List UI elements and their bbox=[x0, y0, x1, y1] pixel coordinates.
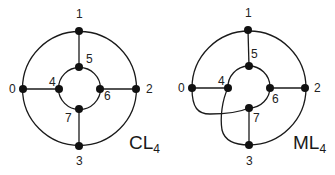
node-1 bbox=[75, 27, 83, 35]
label-5: 5 bbox=[251, 47, 258, 61]
edge-0-7 bbox=[192, 88, 249, 114]
node-4 bbox=[224, 84, 232, 92]
node-3 bbox=[245, 141, 253, 149]
node-6 bbox=[266, 84, 274, 92]
label-0: 0 bbox=[178, 81, 185, 95]
node-2 bbox=[301, 84, 309, 92]
node-5 bbox=[75, 63, 83, 71]
edge-4-3 bbox=[221, 88, 249, 145]
node-7 bbox=[75, 105, 83, 113]
cl4-graph: 0 1 2 3 4 5 6 7 CL4 bbox=[9, 7, 160, 168]
node-6 bbox=[96, 85, 104, 93]
label-4: 4 bbox=[49, 75, 56, 89]
inner-ring bbox=[59, 68, 101, 110]
node-4 bbox=[55, 85, 63, 93]
label-6: 6 bbox=[104, 89, 111, 103]
label-0: 0 bbox=[9, 82, 16, 96]
graph-diagrams: 0 1 2 3 4 5 6 7 CL4 0 1 2 3 4 5 bbox=[0, 0, 335, 175]
node-1 bbox=[244, 26, 252, 34]
label-7: 7 bbox=[253, 111, 260, 125]
cl4-title: CL4 bbox=[129, 132, 160, 156]
inner-arc-4-5-6-7 bbox=[228, 66, 270, 108]
node-3 bbox=[75, 142, 83, 150]
label-5: 5 bbox=[86, 52, 93, 66]
node-0 bbox=[19, 85, 27, 93]
label-3: 3 bbox=[76, 154, 83, 168]
label-1: 1 bbox=[245, 6, 252, 20]
edge-1-5 bbox=[248, 30, 249, 66]
label-2: 2 bbox=[146, 82, 153, 96]
ml4-title: ML4 bbox=[293, 132, 326, 156]
node-5 bbox=[245, 62, 253, 70]
label-6: 6 bbox=[272, 92, 279, 106]
label-4: 4 bbox=[218, 74, 225, 88]
label-3: 3 bbox=[246, 154, 253, 168]
label-2: 2 bbox=[314, 81, 321, 95]
node-0 bbox=[188, 84, 196, 92]
node-2 bbox=[132, 85, 140, 93]
label-7: 7 bbox=[65, 111, 72, 125]
node-7 bbox=[245, 104, 253, 112]
ml4-graph: 0 1 2 3 4 5 6 7 ML4 bbox=[178, 6, 326, 168]
label-1: 1 bbox=[76, 7, 83, 21]
